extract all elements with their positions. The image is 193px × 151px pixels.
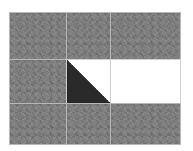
- puzzle-tile-r2c2[interactable]: [110, 103, 181, 145]
- puzzle-tile-r1c1[interactable]: [66, 59, 111, 104]
- puzzle-tile-r1c2-empty[interactable]: [110, 59, 181, 104]
- puzzle-board: [9, 12, 181, 145]
- puzzle-tile-r0c0[interactable]: [9, 12, 67, 60]
- puzzle-tile-r2c1[interactable]: [66, 103, 111, 145]
- puzzle-tile-r1c0[interactable]: [9, 59, 67, 104]
- puzzle-tile-r0c2[interactable]: [110, 12, 181, 60]
- puzzle-tile-r2c0[interactable]: [9, 103, 67, 145]
- triangle-shape-icon: [67, 60, 110, 103]
- puzzle-tile-r0c1[interactable]: [66, 12, 111, 60]
